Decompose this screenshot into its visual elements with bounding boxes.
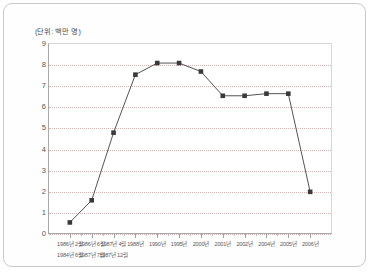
y-tick-label: 2 xyxy=(32,186,46,195)
x-tick xyxy=(266,234,267,238)
data-point-marker xyxy=(155,61,160,66)
data-point-marker xyxy=(111,130,116,135)
x-tick xyxy=(201,234,202,238)
data-point-marker xyxy=(308,190,313,195)
y-tick-label: 7 xyxy=(32,81,46,90)
y-tick-label: 6 xyxy=(32,102,46,111)
x-tick xyxy=(92,234,93,238)
x-tick xyxy=(179,234,180,238)
x-tick-minor xyxy=(234,234,235,236)
x-tick-minor xyxy=(190,234,191,236)
chart-frame: (단위: 백만 명) 0123456789 1986년 2월1986년 6월19… xyxy=(3,3,366,267)
x-tick-minor xyxy=(212,234,213,236)
data-point-marker xyxy=(286,91,291,96)
x-tick-minor xyxy=(277,234,278,236)
unit-note: (단위: 백만 명) xyxy=(35,26,81,36)
y-tick-label: 1 xyxy=(32,207,46,216)
y-axis-tick-labels: 0123456789 xyxy=(30,43,46,233)
x-tick xyxy=(157,234,158,238)
x-tick xyxy=(288,234,289,238)
data-point-marker xyxy=(199,69,204,74)
x-tick-label: 2006년 xyxy=(302,240,318,248)
x-tick xyxy=(135,234,136,238)
x-tick xyxy=(70,234,71,238)
x-tick-label: 1995년 xyxy=(171,240,187,248)
data-point-marker xyxy=(242,93,247,98)
y-tick-label: 4 xyxy=(32,144,46,153)
data-point-marker xyxy=(220,93,225,98)
x-tick-minor xyxy=(168,234,169,236)
x-tick xyxy=(114,234,115,238)
series-line xyxy=(70,63,310,222)
x-tick-minor xyxy=(103,234,104,236)
x-tick-label: 2000년 xyxy=(193,240,209,248)
y-tick-label: 3 xyxy=(32,165,46,174)
x-tick xyxy=(245,234,246,238)
y-tick-label: 5 xyxy=(32,123,46,132)
x-tick-label: 2001년 xyxy=(215,240,231,248)
x-axis-ticks xyxy=(48,234,332,239)
x-tick-label: 1987년 4월 xyxy=(101,240,127,248)
x-tick xyxy=(223,234,224,238)
y-tick-label: 0 xyxy=(32,229,46,238)
x-tick-minor xyxy=(81,234,82,236)
x-tick xyxy=(310,234,311,238)
y-tick-label: 8 xyxy=(32,60,46,69)
x-tick-label: 2004년 xyxy=(258,240,274,248)
x-tick-minor xyxy=(146,234,147,236)
x-axis-tick-labels: 1986년 2월1986년 6월1987년 4월1988년1990년1995년2… xyxy=(48,240,332,270)
data-point-marker xyxy=(133,72,138,77)
x-tick-minor xyxy=(256,234,257,236)
x-tick-label-secondary: 1987년 12월 xyxy=(99,251,127,259)
x-tick-minor xyxy=(299,234,300,236)
data-point-marker xyxy=(89,198,94,203)
x-tick-label: 1990년 xyxy=(149,240,165,248)
data-point-marker xyxy=(68,220,73,225)
x-tick-label: 2005년 xyxy=(280,240,296,248)
line-series xyxy=(48,43,332,233)
data-point-marker xyxy=(177,61,182,66)
y-tick-label: 9 xyxy=(32,39,46,48)
x-tick-label: 2002년 xyxy=(236,240,252,248)
x-tick-label: 1988년 xyxy=(127,240,143,248)
x-tick-minor xyxy=(124,234,125,236)
data-point-marker xyxy=(264,91,269,96)
